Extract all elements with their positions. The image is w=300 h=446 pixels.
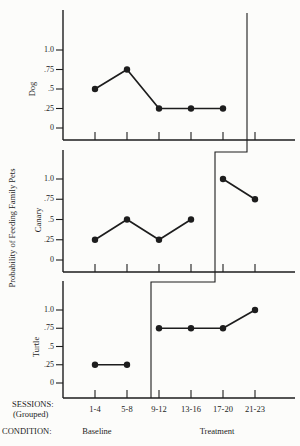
y-tick-label: .5 bbox=[24, 342, 54, 352]
y-tick-label: .75 bbox=[24, 194, 54, 204]
y-tick-label: 1.0 bbox=[24, 305, 54, 315]
phase-change-line bbox=[151, 13, 247, 398]
data-point bbox=[92, 237, 98, 243]
data-point bbox=[220, 176, 226, 182]
data-point bbox=[188, 105, 194, 111]
data-point bbox=[92, 86, 98, 92]
condition-treatment-label: Treatment bbox=[177, 427, 257, 436]
multiple-baseline-chart: Probability of Feeding Family Pets Dog C… bbox=[0, 0, 300, 446]
data-point bbox=[124, 66, 130, 72]
x-tick-label: 21-23 bbox=[235, 404, 275, 414]
data-point bbox=[252, 196, 258, 202]
data-line bbox=[95, 220, 191, 240]
data-point bbox=[156, 237, 162, 243]
data-point bbox=[92, 362, 98, 368]
y-tick-label: .25 bbox=[24, 360, 54, 370]
data-point bbox=[124, 216, 130, 222]
data-point bbox=[220, 105, 226, 111]
y-tick-label: 0 bbox=[24, 255, 54, 265]
data-point bbox=[156, 105, 162, 111]
sessions-axis-label: SESSIONS: bbox=[12, 400, 54, 409]
data-line bbox=[95, 70, 223, 109]
y-tick-label: .75 bbox=[24, 323, 54, 333]
data-point bbox=[220, 325, 226, 331]
y-tick-label: 0 bbox=[24, 378, 54, 388]
data-point bbox=[188, 325, 194, 331]
data-line bbox=[159, 310, 255, 328]
data-line bbox=[223, 179, 255, 199]
y-tick-label: .5 bbox=[24, 84, 54, 94]
y-tick-label: .25 bbox=[24, 104, 54, 114]
y-tick-label: 1.0 bbox=[24, 174, 54, 184]
y-tick-label: 0 bbox=[24, 123, 54, 133]
data-point bbox=[156, 325, 162, 331]
condition-baseline-label: Baseline bbox=[57, 427, 137, 436]
y-tick-label: 1.0 bbox=[24, 45, 54, 55]
condition-axis-label: CONDITION: bbox=[2, 427, 52, 436]
y-tick-label: .5 bbox=[24, 215, 54, 225]
data-point bbox=[188, 216, 194, 222]
grouped-axis-label: (Grouped) bbox=[13, 410, 48, 419]
data-point bbox=[252, 307, 258, 313]
y-axis-title: Probability of Feeding Family Pets bbox=[6, 143, 18, 313]
y-tick-label: .25 bbox=[24, 235, 54, 245]
y-tick-label: .75 bbox=[24, 65, 54, 75]
data-point bbox=[124, 362, 130, 368]
